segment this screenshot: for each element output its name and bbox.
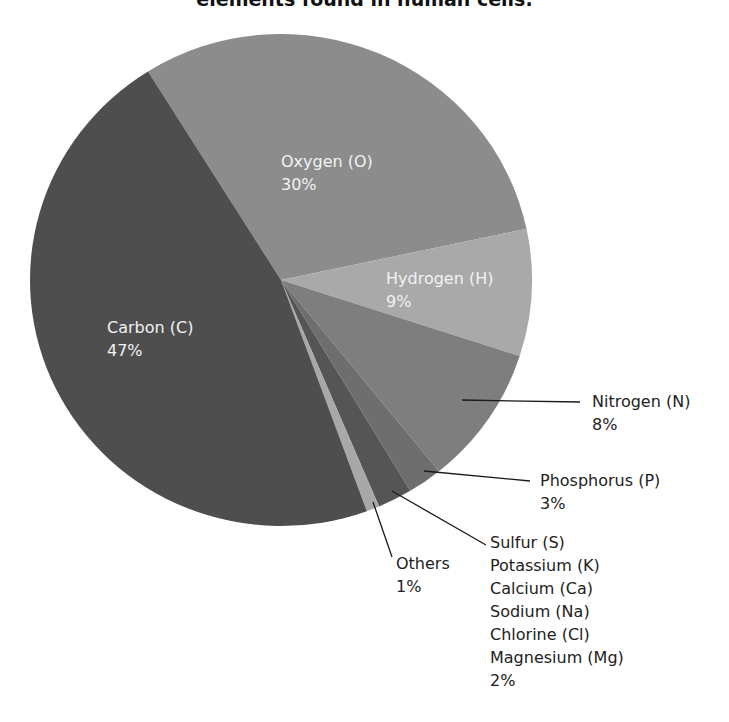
- label-calcium: Calcium (Ca): [490, 577, 624, 600]
- label-nitrogen-pct: 8%: [592, 413, 690, 436]
- label-others: Others 1%: [396, 552, 450, 598]
- label-carbon-pct: 47%: [107, 339, 193, 362]
- label-hydrogen: Hydrogen (H) 9%: [386, 267, 493, 313]
- label-potassium: Potassium (K): [490, 554, 624, 577]
- leader-phosphorus: [424, 471, 530, 481]
- label-nitrogen: Nitrogen (N) 8%: [592, 390, 690, 436]
- label-phosphorus-pct: 3%: [540, 492, 660, 515]
- label-magnesium: Magnesium (Mg): [490, 646, 624, 669]
- label-carbon-name: Carbon (C): [107, 316, 193, 339]
- label-hydrogen-name: Hydrogen (H): [386, 267, 493, 290]
- label-nitrogen-name: Nitrogen (N): [592, 390, 690, 413]
- label-minor-elements: Sulfur (S) Potassium (K) Calcium (Ca) So…: [490, 531, 624, 692]
- label-oxygen: Oxygen (O) 30%: [281, 150, 373, 196]
- label-phosphorus: Phosphorus (P) 3%: [540, 469, 660, 515]
- label-hydrogen-pct: 9%: [386, 290, 493, 313]
- leader-minor-elements: [392, 491, 486, 545]
- label-oxygen-pct: 30%: [281, 173, 373, 196]
- label-others-pct: 1%: [396, 575, 450, 598]
- label-chlorine: Chlorine (Cl): [490, 623, 624, 646]
- label-minor-elements-pct: 2%: [490, 669, 624, 692]
- label-others-name: Others: [396, 552, 450, 575]
- label-oxygen-name: Oxygen (O): [281, 150, 373, 173]
- leader-others: [373, 502, 392, 557]
- label-phosphorus-name: Phosphorus (P): [540, 469, 660, 492]
- label-sulfur: Sulfur (S): [490, 531, 624, 554]
- label-sodium: Sodium (Na): [490, 600, 624, 623]
- label-carbon: Carbon (C) 47%: [107, 316, 193, 362]
